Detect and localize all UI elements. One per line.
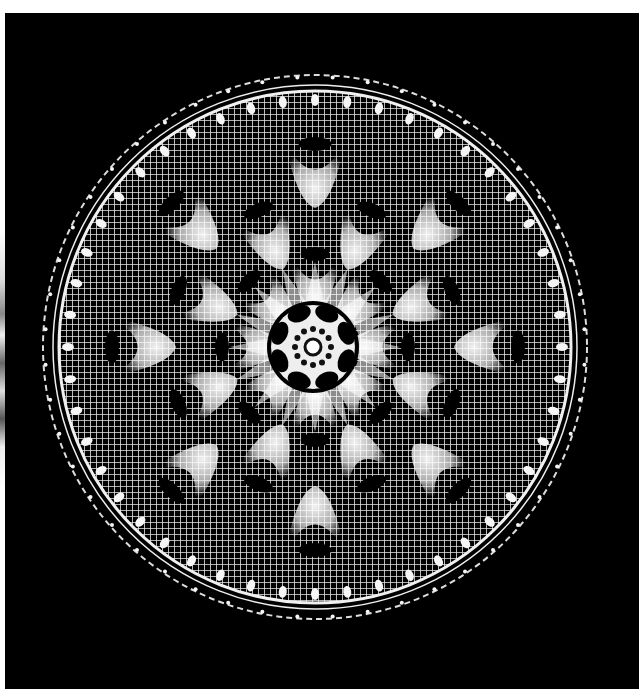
center-rosette: (function(){ var g=document.currentScrip… (267, 301, 359, 393)
doily-illustration: (function(){ var g=document.currentScrip… (0, 0, 642, 698)
